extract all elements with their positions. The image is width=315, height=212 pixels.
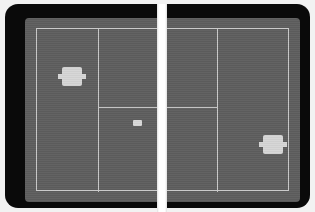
game-title: Tennis — [0, 0, 1, 1]
player-two-body — [263, 135, 283, 154]
player-one-racket-right-icon — [81, 74, 86, 79]
net-highlight — [157, 4, 167, 212]
net — [157, 4, 167, 212]
left-service-sideline — [98, 28, 99, 192]
player-two-racket-right-icon — [282, 142, 287, 147]
ball-sprite[interactable] — [133, 120, 142, 126]
player-two-sprite[interactable] — [259, 135, 287, 154]
player-one-body — [62, 67, 82, 86]
player-one-sprite[interactable] — [58, 67, 86, 86]
game-screen: Tennis — [0, 0, 315, 212]
console-bezel — [5, 4, 310, 208]
right-service-sideline — [217, 28, 218, 192]
